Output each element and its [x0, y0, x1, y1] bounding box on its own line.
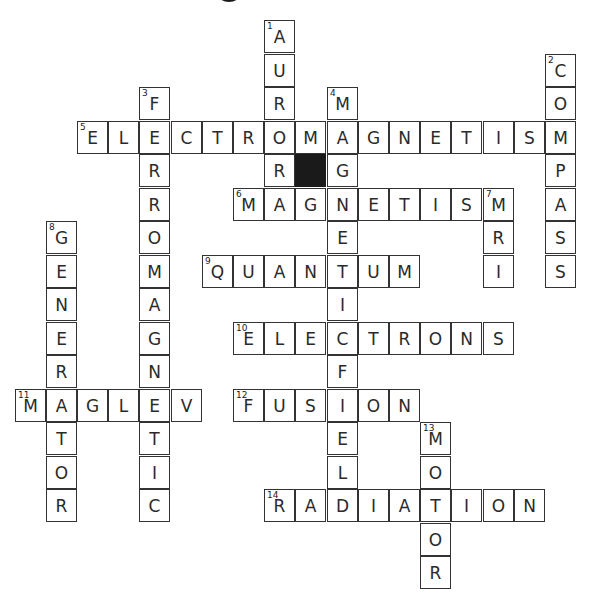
grid-cell[interactable]: T — [389, 188, 420, 221]
grid-cell[interactable]: G — [139, 322, 170, 355]
grid-cell[interactable]: E — [46, 255, 77, 288]
grid-cell[interactable]: V — [171, 389, 202, 422]
grid-cell[interactable]: A — [327, 121, 358, 154]
grid-cell[interactable]: A — [295, 489, 326, 522]
grid-cell[interactable]: N — [327, 188, 358, 221]
grid-cell[interactable]: T — [358, 322, 389, 355]
grid-cell[interactable]: 12F — [233, 389, 264, 422]
grid-cell[interactable]: I — [483, 121, 514, 154]
grid-cell[interactable]: 9Q — [202, 255, 233, 288]
grid-cell[interactable]: R — [46, 355, 77, 388]
grid-cell[interactable]: I — [327, 288, 358, 321]
grid-cell[interactable]: G — [327, 154, 358, 187]
grid-cell[interactable]: L — [108, 389, 139, 422]
grid-cell[interactable]: M — [139, 255, 170, 288]
grid-cell[interactable]: A — [545, 188, 576, 221]
grid-cell[interactable]: E — [327, 221, 358, 254]
grid-cell[interactable]: O — [545, 87, 576, 120]
grid-cell[interactable]: 10E — [233, 322, 264, 355]
grid-cell[interactable]: G — [77, 389, 108, 422]
grid-cell[interactable]: O — [420, 456, 451, 489]
grid-cell[interactable]: U — [264, 54, 295, 87]
grid-cell[interactable]: T — [139, 422, 170, 455]
grid-cell[interactable]: N — [139, 355, 170, 388]
grid-cell[interactable]: A — [264, 188, 295, 221]
grid-cell[interactable]: O — [264, 121, 295, 154]
grid-cell[interactable]: I — [327, 389, 358, 422]
grid-cell[interactable]: M — [545, 121, 576, 154]
grid-cell[interactable]: G — [295, 188, 326, 221]
grid-cell[interactable]: 1A — [264, 20, 295, 53]
grid-cell[interactable]: L — [327, 456, 358, 489]
grid-cell[interactable]: 5E — [77, 121, 108, 154]
grid-cell[interactable]: U — [264, 389, 295, 422]
grid-cell[interactable]: T — [327, 255, 358, 288]
grid-cell[interactable]: N — [389, 121, 420, 154]
grid-cell[interactable]: 2C — [545, 54, 576, 87]
grid-cell[interactable]: E — [358, 188, 389, 221]
grid-cell[interactable]: S — [483, 322, 514, 355]
grid-cell[interactable]: E — [420, 121, 451, 154]
grid-cell[interactable]: E — [327, 422, 358, 455]
grid-cell[interactable]: T — [451, 121, 482, 154]
grid-cell[interactable]: E — [295, 322, 326, 355]
grid-cell[interactable]: E — [139, 389, 170, 422]
grid-cell[interactable]: T — [202, 121, 233, 154]
grid-cell[interactable]: 8G — [46, 221, 77, 254]
grid-cell[interactable]: R — [483, 221, 514, 254]
grid-cell[interactable]: I — [358, 489, 389, 522]
grid-cell[interactable]: S — [295, 389, 326, 422]
grid-cell[interactable]: C — [139, 489, 170, 522]
grid-cell[interactable]: E — [46, 322, 77, 355]
grid-cell[interactable]: G — [358, 121, 389, 154]
grid-cell[interactable]: A — [139, 288, 170, 321]
grid-cell[interactable]: A — [46, 389, 77, 422]
grid-cell[interactable]: N — [389, 389, 420, 422]
grid-cell[interactable]: A — [264, 255, 295, 288]
grid-cell[interactable]: O — [46, 456, 77, 489]
grid-cell[interactable]: I — [483, 255, 514, 288]
grid-cell[interactable]: 13M — [420, 422, 451, 455]
grid-cell[interactable]: D — [327, 489, 358, 522]
grid-cell[interactable]: N — [451, 322, 482, 355]
grid-cell[interactable]: M — [295, 121, 326, 154]
grid-cell[interactable]: S — [545, 255, 576, 288]
grid-cell[interactable]: 4M — [327, 87, 358, 120]
grid-cell[interactable]: T — [46, 422, 77, 455]
grid-cell[interactable]: S — [514, 121, 545, 154]
grid-cell[interactable]: L — [108, 121, 139, 154]
grid-cell[interactable]: O — [483, 489, 514, 522]
grid-cell[interactable]: I — [451, 489, 482, 522]
grid-cell[interactable]: I — [139, 456, 170, 489]
grid-cell[interactable]: N — [295, 255, 326, 288]
grid-cell[interactable]: R — [233, 121, 264, 154]
grid-cell[interactable]: F — [327, 355, 358, 388]
grid-cell[interactable]: O — [358, 389, 389, 422]
grid-cell[interactable]: 3F — [139, 87, 170, 120]
grid-cell[interactable]: O — [139, 221, 170, 254]
grid-cell[interactable]: R — [46, 489, 77, 522]
grid-cell[interactable]: C — [327, 322, 358, 355]
grid-cell[interactable]: R — [264, 154, 295, 187]
grid-cell[interactable]: U — [358, 255, 389, 288]
grid-cell[interactable]: S — [545, 221, 576, 254]
grid-cell[interactable]: P — [545, 154, 576, 187]
grid-cell[interactable]: T — [420, 489, 451, 522]
grid-cell[interactable]: E — [139, 121, 170, 154]
grid-cell[interactable]: 7M — [483, 188, 514, 221]
grid-cell[interactable]: L — [264, 322, 295, 355]
grid-cell[interactable]: N — [514, 489, 545, 522]
grid-cell[interactable]: R — [420, 556, 451, 589]
grid-cell[interactable]: U — [233, 255, 264, 288]
grid-cell[interactable]: S — [451, 188, 482, 221]
grid-cell[interactable]: R — [139, 188, 170, 221]
grid-cell[interactable]: O — [420, 322, 451, 355]
grid-cell[interactable]: 11M — [15, 389, 46, 422]
grid-cell[interactable]: C — [171, 121, 202, 154]
grid-cell[interactable]: I — [420, 188, 451, 221]
grid-cell[interactable]: 6M — [233, 188, 264, 221]
grid-cell[interactable]: O — [420, 523, 451, 556]
grid-cell[interactable]: 14R — [264, 489, 295, 522]
grid-cell[interactable]: A — [389, 489, 420, 522]
grid-cell[interactable]: M — [389, 255, 420, 288]
